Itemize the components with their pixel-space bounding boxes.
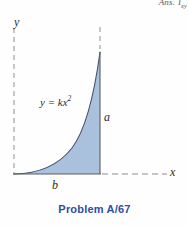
x-axis-label: x bbox=[170, 165, 175, 180]
curve-equation-exponent: 2 bbox=[68, 94, 72, 103]
figure-caption: Problem A/67 bbox=[0, 203, 189, 215]
y-axis-label: y bbox=[14, 15, 19, 30]
shaded-area bbox=[14, 52, 100, 174]
height-dimension-label: a bbox=[104, 110, 110, 125]
width-dimension-label: b bbox=[52, 178, 58, 193]
curve-equation-base: y = kx bbox=[40, 96, 68, 108]
parabola-figure bbox=[0, 0, 189, 226]
figure-page: Ans.Ixy y x a b y = kx2 Problem A/67 bbox=[0, 0, 189, 226]
curve-equation-label: y = kx2 bbox=[40, 94, 71, 108]
